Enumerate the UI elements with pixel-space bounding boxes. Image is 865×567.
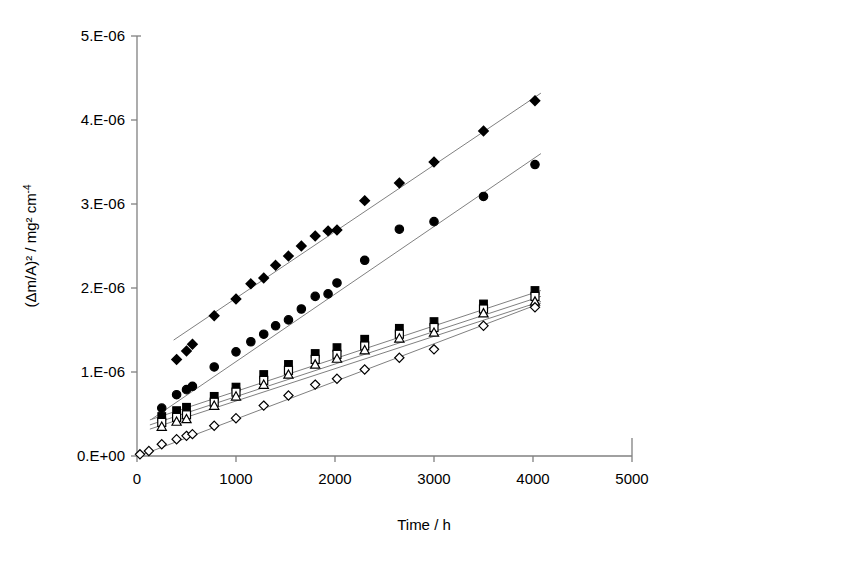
data-point-filled-circle: [311, 292, 319, 300]
x-tick-label: 5000: [615, 470, 648, 487]
x-tick-label: 0: [133, 470, 141, 487]
data-point-filled-circle: [271, 322, 279, 330]
y-tick-label: 3.E-06: [81, 195, 125, 212]
y-axis-title-superscript: -4: [22, 184, 33, 193]
parabolic-oxidation-scatter-chart: 5.E-064.E-063.E-062.E-061.E-060.E+00 010…: [0, 0, 865, 567]
data-point-filled-circle: [172, 390, 180, 398]
data-point-filled-circle: [188, 382, 196, 390]
y-tick-label: 0.E+00: [77, 447, 125, 464]
chart-figure: 5.E-064.E-063.E-062.E-061.E-060.E+00 010…: [0, 0, 865, 567]
svg-text:(Δm/A)² / mg² cm-4: (Δm/A)² / mg² cm-4: [22, 184, 39, 308]
data-point-filled-circle: [531, 160, 539, 168]
y-tick-label: 2.E-06: [81, 279, 125, 296]
data-point-filled-circle: [284, 316, 292, 324]
data-point-filled-circle: [247, 338, 255, 346]
data-point-filled-circle: [324, 290, 332, 298]
data-point-filled-circle: [297, 305, 305, 313]
data-point-filled-circle: [333, 279, 341, 287]
data-point-filled-circle: [430, 217, 438, 225]
data-point-filled-circle: [158, 404, 166, 412]
x-tick-label: 1000: [219, 470, 252, 487]
y-tick-label: 4.E-06: [81, 111, 125, 128]
data-point-filled-circle: [260, 330, 268, 338]
data-point-filled-square: [183, 403, 191, 411]
data-point-filled-circle: [479, 192, 487, 200]
y-axis-title-main: (Δm/A)² / mg² cm: [22, 193, 39, 307]
data-point-filled-circle: [232, 348, 240, 356]
x-tick-label: 3000: [417, 470, 450, 487]
x-axis-title-label: Time / h: [397, 516, 451, 533]
y-axis-title: (Δm/A)² / mg² cm-4: [22, 184, 39, 308]
x-axis-title: Time / h: [397, 516, 451, 533]
data-point-filled-circle: [361, 256, 369, 264]
data-point-filled-circle: [210, 363, 218, 371]
y-tick-label: 1.E-06: [81, 363, 125, 380]
data-point-filled-circle: [395, 225, 403, 233]
y-tick-label: 5.E-06: [81, 27, 125, 44]
x-tick-label: 4000: [516, 470, 549, 487]
x-tick-label: 2000: [318, 470, 351, 487]
